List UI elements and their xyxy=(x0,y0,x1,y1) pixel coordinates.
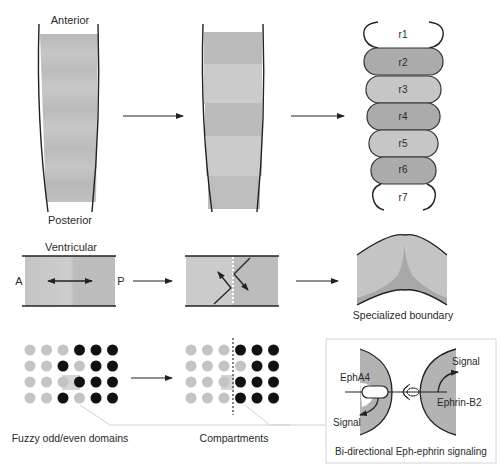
dark-cell-dot xyxy=(107,393,118,404)
anterior-label: Anterior xyxy=(51,14,90,26)
r4-label: r4 xyxy=(399,111,408,122)
dark-cell-dot xyxy=(91,393,102,404)
dark-cell-dot xyxy=(74,345,85,356)
posterior-short-label: P xyxy=(117,275,124,287)
light-cell-dot xyxy=(219,377,230,388)
dark-cell-dot xyxy=(252,345,263,356)
light-cell-dot xyxy=(219,361,230,372)
light-cell-dot xyxy=(202,393,213,404)
anterior-short-label: A xyxy=(15,275,23,287)
dark-cell-dot xyxy=(235,345,246,356)
specialized-boundary-panel: Specialized boundary xyxy=(353,235,454,321)
light-cell-dot xyxy=(74,393,85,404)
compartments-grid: Compartments xyxy=(186,338,280,444)
dark-cell-dot xyxy=(235,393,246,404)
dark-cell-dot xyxy=(91,361,102,372)
r6-label: r6 xyxy=(399,164,408,175)
light-cell-dot xyxy=(25,393,36,404)
boundary-restriction-panel xyxy=(185,256,279,306)
hindbrain-segmentation-diagram: Anterior Posterior r1 r2 r3 r4 r5 xyxy=(0,0,502,470)
ventricular-label: Ventricular xyxy=(45,241,97,253)
light-cell-dot xyxy=(41,377,52,388)
fuzzy-domains-grid: Fuzzy odd/even domains xyxy=(12,345,129,445)
light-cell-dot xyxy=(58,377,69,388)
light-cell-dot xyxy=(202,377,213,388)
right-signal-label: Signal xyxy=(452,356,480,367)
light-cell-dot xyxy=(186,345,197,356)
light-cell-dot xyxy=(74,361,85,372)
dark-cell-dot xyxy=(107,361,118,372)
posterior-label: Posterior xyxy=(48,214,92,226)
dark-cell-dot xyxy=(91,345,102,356)
light-cell-dot xyxy=(58,345,69,356)
ephrin-b2-label: Ephrin-B2 xyxy=(437,397,482,408)
dark-cell-dot xyxy=(58,361,69,372)
dark-cell-dot xyxy=(252,377,263,388)
light-cell-dot xyxy=(186,377,197,388)
neural-tube-stripes xyxy=(202,24,263,212)
dark-cell-dot xyxy=(268,345,279,356)
light-cell-dot xyxy=(25,345,36,356)
left-signal-label: Signal xyxy=(333,417,361,428)
specialized-boundary-caption: Specialized boundary xyxy=(353,309,454,321)
compartments-caption: Compartments xyxy=(200,432,269,444)
light-cell-dot xyxy=(25,377,36,388)
rhombomeres: r1 r2 r3 r4 r5 r6 r7 xyxy=(364,22,443,210)
dark-cell-dot xyxy=(107,345,118,356)
dark-cell-dot xyxy=(268,361,279,372)
dark-cell-dot xyxy=(268,377,279,388)
r7-label: r7 xyxy=(399,192,408,203)
light-cell-dot xyxy=(41,361,52,372)
dark-cell-dot xyxy=(268,393,279,404)
dark-cell-dot xyxy=(252,361,263,372)
dark-cell-dot xyxy=(235,377,246,388)
dark-cell-dot xyxy=(91,377,102,388)
light-cell-dot xyxy=(186,361,197,372)
light-cell-dot xyxy=(219,345,230,356)
light-cell-dot xyxy=(219,393,230,404)
light-cell-dot xyxy=(202,345,213,356)
r3-label: r3 xyxy=(399,84,408,95)
light-cell-dot xyxy=(186,393,197,404)
light-cell-dot xyxy=(41,393,52,404)
dark-cell-dot xyxy=(74,377,85,388)
light-cell-dot xyxy=(202,361,213,372)
dark-cell-dot xyxy=(107,377,118,388)
light-cell-dot xyxy=(235,361,246,372)
ventricular-panel: Ventricular A P xyxy=(15,241,124,306)
neural-tube-fuzzy: Anterior Posterior xyxy=(38,14,98,226)
dark-cell-dot xyxy=(58,393,69,404)
eph-ephrin-inset: EphA4 Ephrin-B2 Signal Signal Bi-directi… xyxy=(326,339,496,463)
r5-label: r5 xyxy=(399,138,408,149)
eph-ephrin-caption: Bi-directional Eph-ephrin signaling xyxy=(335,446,487,457)
light-cell-dot xyxy=(41,345,52,356)
r2-label: r2 xyxy=(399,57,408,68)
epha4-label: EphA4 xyxy=(340,372,370,383)
fuzzy-domains-caption: Fuzzy odd/even domains xyxy=(12,432,129,444)
r1-label: r1 xyxy=(399,29,408,40)
light-cell-dot xyxy=(25,361,36,372)
dark-cell-dot xyxy=(252,393,263,404)
